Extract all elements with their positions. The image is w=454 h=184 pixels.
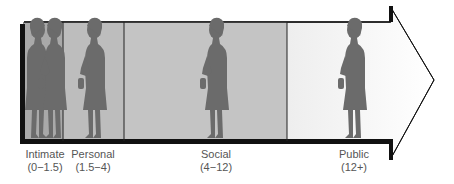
- zone-name: Intimate: [22, 148, 68, 161]
- zone-label-social: Social (4−12): [186, 148, 246, 174]
- zone-range: (0−1.5): [22, 161, 68, 174]
- zone-range: (4−12): [186, 161, 246, 174]
- zone-range: (1.5−4): [68, 161, 118, 174]
- zone-name: Social: [186, 148, 246, 161]
- zone-name: Public: [326, 148, 382, 161]
- zone-label-personal: Personal (1.5−4): [68, 148, 118, 174]
- zone-range: (12+): [326, 161, 382, 174]
- zone-label-public: Public (12+): [326, 148, 382, 174]
- zone-name: Personal: [68, 148, 118, 161]
- zone-label-intimate: Intimate (0−1.5): [22, 148, 68, 174]
